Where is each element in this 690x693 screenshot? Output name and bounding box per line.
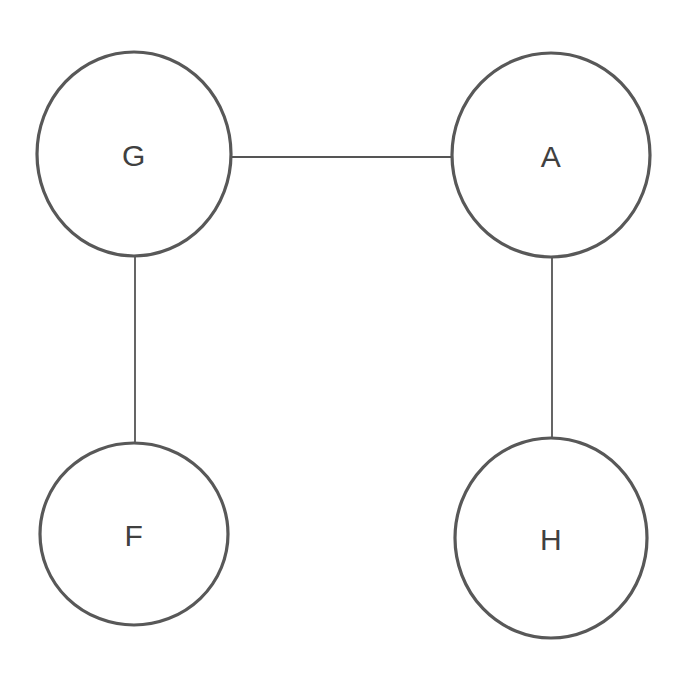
node-h-label: H xyxy=(540,523,562,556)
node-a[interactable]: A xyxy=(452,53,650,257)
node-g[interactable]: G xyxy=(37,52,231,256)
node-g-label: G xyxy=(122,139,146,172)
node-f[interactable]: F xyxy=(40,443,228,625)
node-a-label: A xyxy=(541,140,562,173)
node-h[interactable]: H xyxy=(455,438,647,638)
graph-svg: G A F H xyxy=(0,0,690,693)
node-f-label: F xyxy=(125,519,144,552)
graph-diagram-canvas: G A F H xyxy=(0,0,690,693)
